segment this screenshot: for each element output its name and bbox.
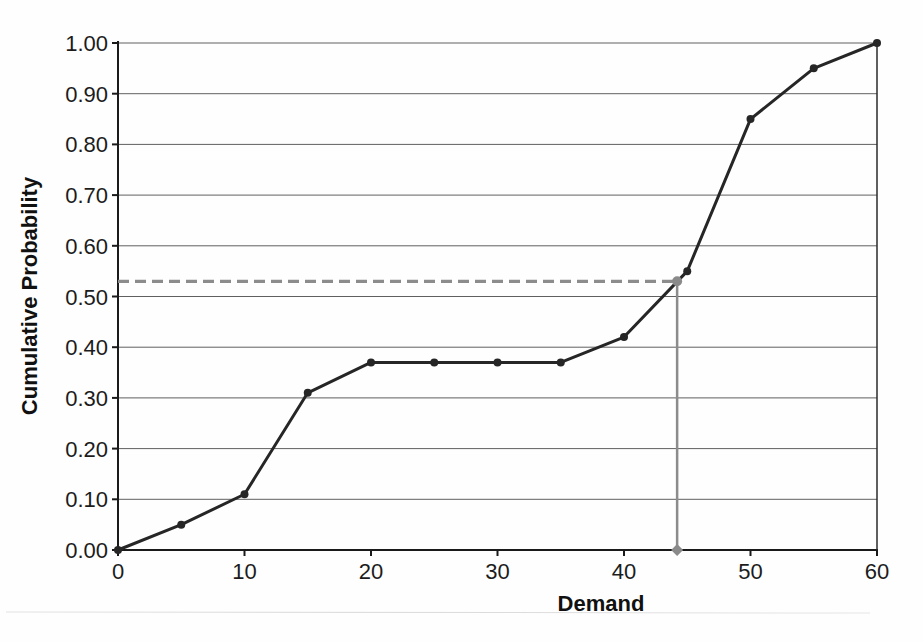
y-tick-label: 1.00 bbox=[65, 31, 108, 56]
data-point-marker bbox=[367, 358, 375, 366]
data-point-marker bbox=[873, 39, 881, 47]
data-point-marker bbox=[177, 521, 185, 529]
data-point-marker bbox=[557, 358, 565, 366]
y-tick-label: 0.60 bbox=[65, 234, 108, 259]
demand-base-marker bbox=[671, 544, 683, 556]
y-tick-label: 0.40 bbox=[65, 335, 108, 360]
data-point-marker bbox=[494, 358, 502, 366]
data-point-marker bbox=[241, 490, 249, 498]
x-tick-label: 50 bbox=[738, 559, 762, 584]
data-point-marker bbox=[114, 546, 122, 554]
x-tick-label: 20 bbox=[359, 559, 383, 584]
y-tick-label: 0.20 bbox=[65, 437, 108, 462]
plot-area: 1.000.900.800.700.600.500.400.300.200.10… bbox=[0, 0, 923, 642]
x-tick-label: 0 bbox=[112, 559, 124, 584]
y-tick-label: 0.50 bbox=[65, 285, 108, 310]
y-tick-label: 0.80 bbox=[65, 132, 108, 157]
y-tick-label: 0.90 bbox=[65, 82, 108, 107]
y-tick-label: 0.10 bbox=[65, 487, 108, 512]
data-point-marker bbox=[810, 64, 818, 72]
x-tick-label: 10 bbox=[232, 559, 256, 584]
data-point-marker bbox=[747, 115, 755, 123]
data-point-marker bbox=[620, 333, 628, 341]
intersection-marker bbox=[672, 276, 682, 286]
chart-figure: 1.000.900.800.700.600.500.400.300.200.10… bbox=[0, 0, 923, 642]
y-axis-title: Cumulative Probability bbox=[17, 177, 43, 415]
data-point-marker bbox=[430, 358, 438, 366]
y-tick-label: 0.30 bbox=[65, 386, 108, 411]
data-point-marker bbox=[304, 389, 312, 397]
x-tick-label: 60 bbox=[865, 559, 889, 584]
y-tick-label: 0.70 bbox=[65, 183, 108, 208]
x-tick-label: 40 bbox=[612, 559, 636, 584]
x-tick-label: 30 bbox=[485, 559, 509, 584]
y-tick-label: 0.00 bbox=[65, 538, 108, 563]
data-point-marker bbox=[683, 267, 691, 275]
